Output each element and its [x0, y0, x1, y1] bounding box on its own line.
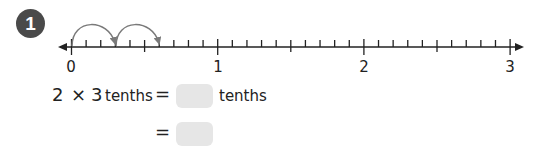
answer-box-1[interactable] — [176, 84, 213, 108]
tick-label-1: 1 — [213, 58, 223, 76]
tick-label-0: 0 — [66, 58, 76, 76]
number-line — [0, 0, 545, 80]
equals-sign-1: = — [155, 83, 170, 104]
tick-label-3: 3 — [505, 58, 515, 76]
equals-sign-2: = — [155, 121, 170, 142]
jump-arc-2 — [116, 25, 159, 46]
answer-box-2[interactable] — [176, 122, 213, 146]
right-unit: tenths — [219, 87, 267, 105]
tick-label-2: 2 — [359, 58, 369, 76]
left-arrow-icon — [58, 43, 67, 51]
jump-arc-1 — [72, 25, 115, 46]
left-unit: tenths — [105, 87, 153, 105]
times-sign: × — [71, 84, 86, 105]
factor-a: 2 — [52, 84, 63, 105]
factor-b: 3 — [91, 84, 102, 105]
right-arrow-icon — [515, 43, 524, 51]
